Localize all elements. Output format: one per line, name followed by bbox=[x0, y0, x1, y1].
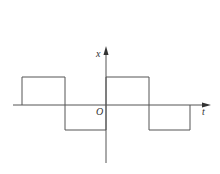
x-axis-arrow-icon bbox=[104, 46, 109, 55]
square-wave-diagram: x t O bbox=[0, 0, 220, 174]
x-axis-label: t bbox=[202, 106, 205, 117]
y-axis-label: x bbox=[95, 48, 101, 59]
origin-label: O bbox=[96, 106, 103, 117]
square-wave-line bbox=[22, 77, 190, 130]
